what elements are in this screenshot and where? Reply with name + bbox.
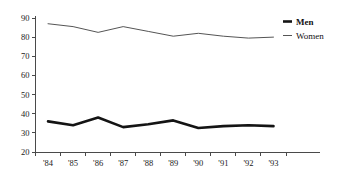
- chart-legend: Men Women: [283, 17, 324, 41]
- y-tick-label: 50: [21, 90, 30, 100]
- legend-label-men: Men: [296, 17, 314, 27]
- y-tick-label: 20: [21, 147, 30, 157]
- chart-canvas: 2030405060708090 '84'85'86'87'88'89'90'9…: [0, 0, 349, 186]
- x-tick-label: '84: [43, 158, 54, 168]
- y-tick-label: 80: [21, 32, 30, 42]
- y-tick-label: 40: [21, 109, 30, 119]
- x-axis-ticks: '84'85'86'87'88'89'90'91'92'93: [36, 152, 287, 168]
- x-tick-label: '88: [143, 158, 153, 168]
- x-tick-label: '87: [118, 158, 128, 168]
- legend-label-women: Women: [296, 31, 324, 41]
- y-tick-label: 30: [21, 128, 30, 138]
- series-line-men: [48, 118, 273, 129]
- y-tick-label: 90: [21, 13, 30, 23]
- x-tick-label: '91: [218, 158, 228, 168]
- y-tick-label: 60: [21, 70, 30, 80]
- x-tick-label: '93: [268, 158, 278, 168]
- series-line-women: [48, 24, 273, 38]
- x-tick-label: '90: [193, 158, 203, 168]
- x-tick-label: '89: [168, 158, 178, 168]
- x-tick-label: '85: [68, 158, 78, 168]
- x-tick-label: '92: [243, 158, 253, 168]
- line-chart: 2030405060708090 '84'85'86'87'88'89'90'9…: [0, 0, 349, 186]
- x-tick-label: '86: [93, 158, 103, 168]
- y-tick-label: 70: [21, 51, 30, 61]
- y-axis-ticks: 2030405060708090: [21, 13, 36, 157]
